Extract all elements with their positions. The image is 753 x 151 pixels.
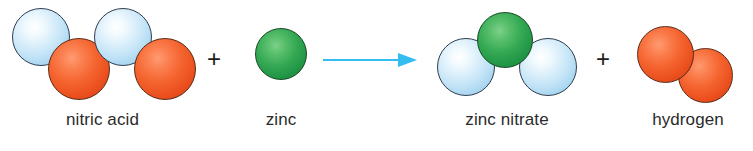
atom-blue-zinc-nitrate-2	[519, 38, 577, 96]
molecule-nitric-acid: nitric acid	[0, 0, 205, 151]
atom-green-zinc	[255, 28, 307, 80]
label-hydrogen: hydrogen	[628, 110, 748, 130]
label-nitric-acid: nitric acid	[0, 110, 205, 130]
plus-sign-2: +	[596, 47, 610, 71]
label-zinc: zinc	[236, 110, 326, 130]
label-zinc-nitrate: zinc nitrate	[432, 110, 582, 130]
atom-blue-zinc-nitrate-1	[437, 38, 495, 96]
chemical-reaction-diagram: nitric acid + zinc zinc nitrate + hydrog…	[0, 0, 753, 151]
atom-orange-hydrogen-2	[678, 48, 733, 103]
reaction-arrow-icon	[322, 48, 418, 72]
atom-green-zinc-nitrate	[477, 12, 533, 68]
atom-orange-hydrogen-1	[637, 26, 694, 83]
atom-orange-nitric-acid-2	[134, 38, 196, 100]
plus-sign-1: +	[207, 47, 221, 71]
